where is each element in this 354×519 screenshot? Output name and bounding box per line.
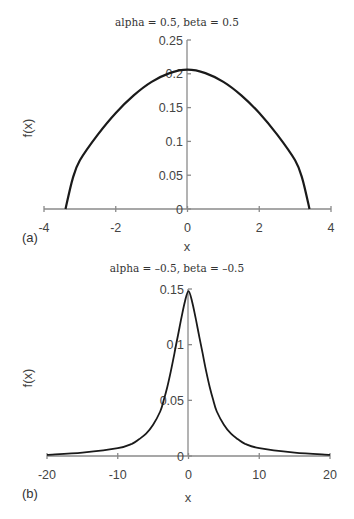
y-tick-label: 0 [176,203,183,217]
y-tick-label: 0.15 [160,283,184,297]
y-tick-label: 0.05 [159,169,183,183]
x-tick-label: 0 [185,468,192,482]
x-tick-label: 20 [323,468,337,482]
x-tick-label: -20 [38,468,56,482]
x-tick-label: 0 [184,221,191,235]
x-tick-label: -4 [38,221,49,235]
y-tick-label: 0 [177,450,184,464]
panel-a-ylabel: f(x) [20,119,35,138]
x-tick-label: 10 [252,468,266,482]
panel-a-x-axis: -4-2024 [38,206,334,235]
panel-a-title: alpha = 0.5, beta = 0.5 [115,16,239,28]
x-tick-label: -2 [110,221,121,235]
panel-a-y-axis: 00.050.10.150.20.25 [159,34,191,217]
y-tick-label: 0.1 [166,135,183,149]
panel-a: alpha = 0.5, beta = 0.5 -4-2024 00.050.1… [20,16,335,254]
x-tick-label: 4 [328,221,335,235]
x-tick-label: -10 [109,468,127,482]
panel-a-xlabel: x [184,239,191,254]
panel-b-xlabel: x [185,490,192,505]
panel-b-ylabel: f(x) [20,369,35,388]
figure: alpha = 0.5, beta = 0.5 -4-2024 00.050.1… [0,0,354,519]
y-tick-label: 0.25 [159,34,183,48]
panel-b-label: (b) [22,486,38,501]
x-tick-label: 2 [256,221,263,235]
panel-b: alpha = –0.5, beta = –0.5 -20-1001020 00… [20,262,337,505]
panel-b-y-axis: 00.050.10.15 [160,283,192,464]
y-tick-label: 0.15 [159,101,183,115]
panel-b-title: alpha = –0.5, beta = –0.5 [110,262,244,274]
panel-b-x-axis: -20-1001020 [38,453,337,482]
panel-a-label: (a) [22,230,38,245]
